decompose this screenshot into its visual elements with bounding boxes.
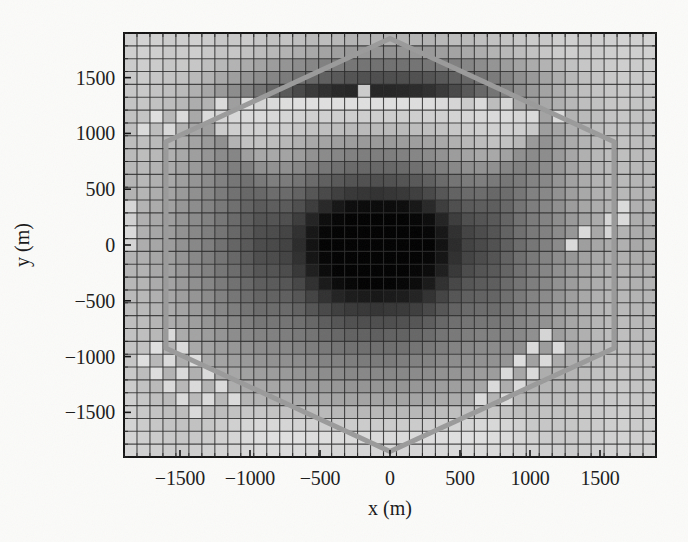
heatmap-cell	[176, 264, 190, 277]
heatmap-cell	[565, 33, 579, 46]
heatmap-cell	[345, 277, 359, 290]
heatmap-cell	[384, 161, 398, 174]
heatmap-cell	[500, 264, 514, 277]
heatmap-cell	[280, 200, 294, 213]
heatmap-cell	[526, 110, 540, 123]
heatmap-cell	[526, 418, 540, 431]
heatmap-cell	[280, 149, 294, 162]
heatmap-cell	[422, 200, 436, 213]
heatmap-cell	[487, 277, 501, 290]
heatmap-cell	[526, 136, 540, 149]
heatmap-cell	[306, 444, 320, 457]
heatmap-cell	[565, 149, 579, 162]
heatmap-cell	[358, 367, 372, 380]
heatmap-cell	[345, 380, 359, 393]
heatmap-cell	[435, 46, 449, 59]
heatmap-cell	[254, 46, 268, 59]
heatmap-cell	[215, 84, 229, 97]
heatmap-cell	[552, 213, 566, 226]
heatmap-cell	[565, 72, 579, 85]
heatmap-cell	[280, 59, 294, 72]
heatmap-cell	[345, 161, 359, 174]
heatmap-cell	[319, 226, 333, 239]
heatmap-cell	[306, 431, 320, 444]
heatmap-cell	[539, 123, 553, 136]
heatmap-cell	[228, 316, 242, 329]
heatmap-cell	[617, 46, 631, 59]
heatmap-cell	[409, 123, 423, 136]
heatmap-cell	[604, 123, 618, 136]
heatmap-cell	[396, 110, 410, 123]
heatmap-cell	[513, 239, 527, 252]
heatmap-cell	[293, 277, 307, 290]
heatmap-cell	[643, 418, 657, 431]
heatmap-cell	[267, 72, 281, 85]
heatmap-cell	[448, 213, 462, 226]
heatmap-cell	[409, 251, 423, 264]
heatmap-cell	[565, 187, 579, 200]
heatmap-cell	[513, 431, 527, 444]
heatmap-cell	[189, 149, 203, 162]
heatmap-cell	[604, 59, 618, 72]
heatmap-cell	[150, 84, 164, 97]
heatmap-cell	[150, 431, 164, 444]
heatmap-cell	[409, 367, 423, 380]
heatmap-cell	[254, 200, 268, 213]
heatmap-cell	[176, 161, 190, 174]
heatmap-cell	[474, 161, 488, 174]
heatmap-cell	[526, 213, 540, 226]
heatmap-cell	[345, 149, 359, 162]
heatmap-cell	[280, 418, 294, 431]
heatmap-cell	[189, 329, 203, 342]
heatmap-cell	[306, 213, 320, 226]
heatmap-cell	[293, 161, 307, 174]
heatmap-cell	[215, 264, 229, 277]
heatmap-cell	[474, 226, 488, 239]
heatmap-cell	[228, 161, 242, 174]
heatmap-cell	[280, 226, 294, 239]
heatmap-cell	[215, 418, 229, 431]
heatmap-cell	[552, 290, 566, 303]
heatmap-cell	[371, 393, 385, 406]
heatmap-cell	[371, 84, 385, 97]
heatmap-cell	[241, 329, 255, 342]
heatmap-cell	[241, 290, 255, 303]
heatmap-cell	[241, 161, 255, 174]
heatmap-cell	[345, 290, 359, 303]
heatmap-cell	[215, 354, 229, 367]
heatmap-cell	[267, 303, 281, 316]
heatmap-cell	[448, 33, 462, 46]
heatmap-cell	[435, 97, 449, 110]
heatmap-cell	[565, 380, 579, 393]
heatmap-cell	[215, 341, 229, 354]
heatmap-cell	[384, 239, 398, 252]
heatmap-cell	[241, 136, 255, 149]
heatmap-cell	[422, 213, 436, 226]
heatmap-cell	[358, 200, 372, 213]
heatmap-cell	[345, 110, 359, 123]
heatmap-cell	[306, 316, 320, 329]
heatmap-cell	[254, 431, 268, 444]
heatmap-cell	[565, 84, 579, 97]
heatmap-cell	[215, 406, 229, 419]
heatmap-cell	[228, 33, 242, 46]
heatmap-cell	[526, 149, 540, 162]
heatmap-cell	[163, 59, 177, 72]
heatmap-cell	[228, 46, 242, 59]
heatmap-cell	[409, 406, 423, 419]
heatmap-cell	[332, 46, 346, 59]
heatmap-cell	[448, 303, 462, 316]
heatmap-cell	[345, 123, 359, 136]
heatmap-cell	[500, 200, 514, 213]
heatmap-cell	[643, 367, 657, 380]
heatmap-cell	[435, 72, 449, 85]
heatmap-cell	[150, 406, 164, 419]
heatmap-cell	[487, 264, 501, 277]
heatmap-cell	[565, 46, 579, 59]
heatmap-cell	[539, 213, 553, 226]
heatmap-cell	[215, 316, 229, 329]
heatmap-cell	[513, 226, 527, 239]
heatmap-cell	[228, 290, 242, 303]
heatmap-cell	[189, 316, 203, 329]
heatmap-cell	[591, 97, 605, 110]
